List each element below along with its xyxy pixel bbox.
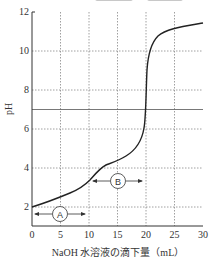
annotation-b-label: B xyxy=(115,177,121,187)
x-tick: 10 xyxy=(84,229,94,240)
y-ticks: 2 4 6 8 10 12 xyxy=(19,6,29,212)
y-tick: 8 xyxy=(24,84,29,95)
y-tick: 6 xyxy=(24,123,29,134)
y-axis-label: pH xyxy=(3,103,14,115)
x-axis-label: NaOH 水溶液の滴下量（mL） xyxy=(52,246,185,258)
x-tick: 15 xyxy=(113,229,123,240)
x-tick: 30 xyxy=(198,229,208,240)
titration-chart: 2 4 6 8 10 12 0 5 10 15 20 25 30 pH NaOH… xyxy=(0,0,213,262)
x-tick: 0 xyxy=(30,229,35,240)
y-tick: 12 xyxy=(19,6,29,17)
axes xyxy=(32,12,203,226)
y-tick: 2 xyxy=(24,201,29,212)
y-tick: 4 xyxy=(24,162,29,173)
x-tick: 5 xyxy=(58,229,63,240)
grid xyxy=(32,12,203,226)
annotation-a: A xyxy=(34,207,86,222)
x-ticks: 0 5 10 15 20 25 30 xyxy=(30,229,209,240)
x-tick: 25 xyxy=(170,229,180,240)
x-tick: 20 xyxy=(141,229,151,240)
annotation-b: B xyxy=(92,174,143,189)
y-tick: 10 xyxy=(19,45,29,56)
annotation-a-label: A xyxy=(57,210,63,220)
